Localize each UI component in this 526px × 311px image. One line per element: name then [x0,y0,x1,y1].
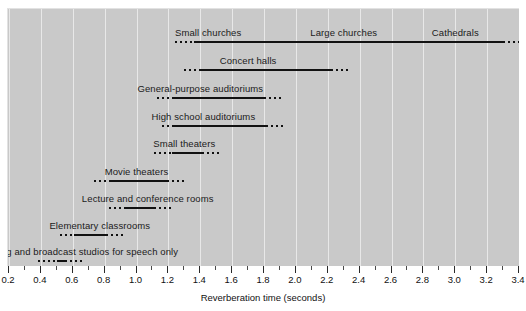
x-axis-tick-label: 0.8 [97,274,110,285]
range-dotted-end [106,234,124,236]
x-axis-tick-label: 0.2 [1,274,14,285]
x-axis-tick-label: 1.8 [256,274,269,285]
x-axis-minor-tick [502,266,503,270]
x-axis-tick-2.6 [391,266,392,273]
range-solid-bar [194,41,503,43]
x-axis-tick-2.8 [422,266,423,273]
range-dotted-start [184,69,200,71]
range-dotted-start [162,125,173,127]
range-dotted-end [264,97,282,99]
range-row: Movie theaters [8,158,519,184]
range-row-label: High school auditoriums [152,111,256,122]
x-axis-minor-tick [88,266,89,270]
x-axis-tick-2.0 [295,266,296,273]
x-axis-tick-3.4 [518,266,519,273]
x-axis-tick-2.2 [327,266,328,273]
x-axis-minor-tick [247,266,248,270]
range-solid-bar [74,234,106,236]
range-dotted-start [94,180,110,182]
x-axis-tick-1.6 [231,266,232,273]
range-dotted-start [38,260,57,262]
x-axis-tick-3.2 [486,266,487,273]
range-row: High school auditoriums [8,103,519,129]
range-row-label: Small churches [175,27,241,38]
range-dotted-start [60,234,74,236]
range-dotted-start [154,152,172,154]
x-axis-tick-label: 2.2 [320,274,333,285]
range-row-label: Large churches [310,27,377,38]
range-solid-bar [109,180,166,182]
x-axis-minor-tick [470,266,471,270]
x-axis-minor-tick [279,266,280,270]
range-solid-bar [200,69,331,71]
x-axis-tick-label: 3.2 [479,274,492,285]
x-axis-tick-label: 3.4 [511,274,524,285]
x-axis-tick-1.2 [167,266,168,273]
range-dotted-end [167,180,186,182]
range-row-label: Recording and broadcast studios for spee… [7,246,178,257]
x-axis-tick-label: 2.0 [288,274,301,285]
range-row-label: Elementary classrooms [49,220,150,231]
reverberation-time-chart: Small churchesLarge churchesCathedralsCo… [0,0,526,311]
range-dotted-start [157,97,171,99]
x-axis-tick-label: 3.0 [448,274,461,285]
range-solid-bar [173,125,265,127]
x-axis-minor-tick [215,266,216,270]
range-row-label: Lecture and conference rooms [82,193,214,204]
x-axis-tick-label: 1.0 [129,274,142,285]
range-row-label: Cathedrals [432,27,479,38]
x-axis-minor-tick [56,266,57,270]
range-solid-bar [124,207,154,209]
x-axis-minor-tick [406,266,407,270]
x-axis-tick-0.2 [8,266,9,273]
plot-area: Small churchesLarge churchesCathedralsCo… [7,8,519,266]
x-axis-tick-label: 1.4 [193,274,206,285]
range-row: Recording and broadcast studios for spee… [8,238,519,264]
range-row: Small theaters [8,130,519,156]
x-axis-tick-label: 2.8 [416,274,429,285]
x-axis-minor-tick [183,266,184,270]
range-row-label: Concert halls [220,55,277,66]
x-axis-tick-label: 2.4 [352,274,365,285]
x-axis-tick-1.0 [136,266,137,273]
range-row-label: Small theaters [153,138,215,149]
range-dotted-end [331,69,349,71]
range-row: Lecture and conference rooms [8,185,519,211]
x-axis-minor-tick [343,266,344,270]
x-axis-tick-3.0 [454,266,455,273]
range-solid-bar [172,152,202,154]
x-axis-tick-label: 1.2 [161,274,174,285]
range-dotted-start [175,41,194,43]
range-dotted-end [503,41,519,43]
range-dotted-end [266,125,284,127]
x-axis-tick-label: 0.4 [33,274,46,285]
range-dotted-end [154,207,172,209]
range-row-label: Movie theaters [105,166,169,177]
x-axis-minor-tick [24,266,25,270]
x-axis: 0.20.40.60.81.01.21.41.61.82.02.22.42.62… [0,266,526,311]
x-axis-tick-label: 2.6 [384,274,397,285]
range-row-label: General-purpose auditoriums [137,83,263,94]
x-axis-tick-0.8 [104,266,105,273]
range-solid-bar [172,97,264,99]
range-row: Elementary classrooms [8,212,519,238]
range-dotted-end [202,152,220,154]
range-row: General-purpose auditoriums [8,75,519,101]
x-axis-tick-1.8 [263,266,264,273]
x-axis-minor-tick [311,266,312,270]
range-dotted-end [65,260,83,262]
x-axis-tick-0.6 [72,266,73,273]
range-row: Small churchesLarge churchesCathedrals [8,19,519,45]
x-axis-minor-tick [375,266,376,270]
x-axis-minor-tick [120,266,121,270]
x-axis-title: Reverberation time (seconds) [0,292,526,303]
x-axis-minor-tick [151,266,152,270]
x-axis-tick-0.4 [40,266,41,273]
range-row: Concert halls [8,47,519,73]
x-axis-tick-label: 1.6 [224,274,237,285]
range-solid-bar [57,260,65,262]
range-dotted-start [109,207,123,209]
x-axis-minor-tick [438,266,439,270]
x-axis-tick-2.4 [359,266,360,273]
x-axis-tick-label: 0.6 [65,274,78,285]
